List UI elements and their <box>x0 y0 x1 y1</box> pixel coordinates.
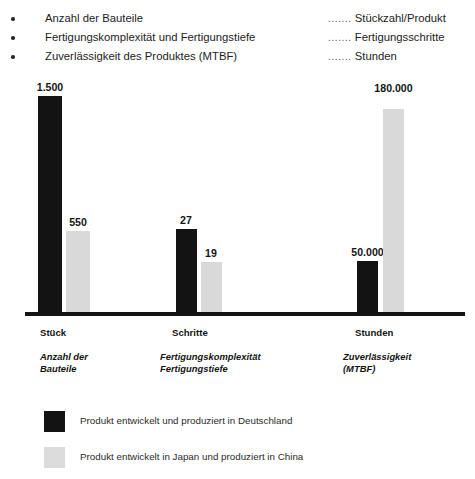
category-label-stunden: Stunden <box>355 327 393 338</box>
bar-chart: 1.500 550 27 19 50.000 180.000 Stück Sch… <box>0 0 475 400</box>
legend-label-germany: Produkt entwickelt und produziert in Deu… <box>80 415 292 426</box>
bar-stunden-germany <box>357 261 378 312</box>
bar-value-stunden-asia: 180.000 <box>366 82 421 94</box>
bar-value-schritte-germany: 27 <box>161 214 211 226</box>
bar-stueck-germany <box>38 96 62 312</box>
category-sub-stueck-line2: Bauteile <box>40 363 76 376</box>
bar-stueck-asia <box>66 231 90 312</box>
bar-schritte-germany <box>176 229 197 312</box>
legend-label-asia: Produkt entwickelt in Japan und produzie… <box>80 451 303 462</box>
category-sub-stunden-line1: Zuverlässigkeit <box>343 351 411 364</box>
chart-legend: Produkt entwickelt und produziert in Deu… <box>0 405 475 479</box>
legend-swatch-dark-icon <box>44 411 65 432</box>
category-label-stueck: Stück <box>40 327 66 338</box>
category-sub-stueck-line1: Anzahl der <box>40 351 88 364</box>
x-axis-line <box>25 312 465 316</box>
bar-value-stueck-asia: 550 <box>53 216 103 228</box>
bar-schritte-asia <box>201 262 222 312</box>
legend-swatch-light-icon <box>44 447 65 468</box>
category-sub-schritte-line2: Fertigungstiefe <box>160 363 228 376</box>
category-sub-stunden-line2: (MTBF) <box>343 363 375 376</box>
category-sub-schritte-line1: Fertigungskomplexität <box>160 351 261 364</box>
bar-value-schritte-asia: 19 <box>186 247 236 259</box>
category-label-schritte: Schritte <box>172 327 208 338</box>
bar-stunden-asia <box>383 109 404 312</box>
bar-value-stueck-germany: 1.500 <box>25 81 75 93</box>
